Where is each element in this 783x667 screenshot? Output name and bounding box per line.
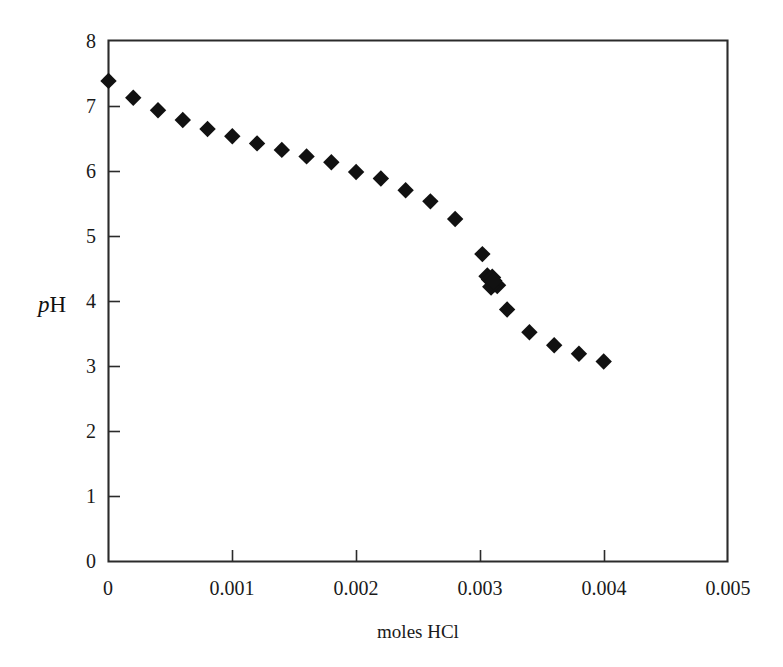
- x-tick-label-2: 0.002: [334, 577, 379, 599]
- x-tick-label-3: 0.003: [458, 577, 503, 599]
- y-tick-label-7: 7: [86, 95, 96, 117]
- y-tick-label-2: 2: [86, 420, 96, 442]
- x-axis-title: moles HCl: [377, 621, 459, 642]
- y-tick-label-0: 0: [86, 550, 96, 572]
- y-tick-label-5: 5: [86, 225, 96, 247]
- x-tick-label-0: 0: [103, 577, 113, 599]
- y-axis-title-p: p: [36, 292, 50, 317]
- y-tick-label-8: 8: [86, 30, 96, 52]
- x-tick-label-4: 0.004: [582, 577, 627, 599]
- y-axis-title-h: H: [50, 292, 67, 317]
- chart-background: [0, 0, 783, 667]
- y-tick-label-4: 4: [86, 290, 96, 312]
- x-tick-label-5: 0.005: [706, 577, 751, 599]
- y-tick-label-3: 3: [86, 355, 96, 377]
- y-axis-title: pH: [36, 292, 66, 317]
- chart-figure: 8 7 6 5 4 3 2 1 0 0 0.001 0.002 0.003 0.…: [0, 0, 783, 667]
- y-tick-label-6: 6: [86, 160, 96, 182]
- y-tick-labels: 8 7 6 5 4 3 2 1 0: [86, 30, 96, 572]
- x-tick-label-1: 0.001: [210, 577, 255, 599]
- y-tick-label-1: 1: [86, 485, 96, 507]
- scatter-plot: 8 7 6 5 4 3 2 1 0 0 0.001 0.002 0.003 0.…: [0, 0, 783, 667]
